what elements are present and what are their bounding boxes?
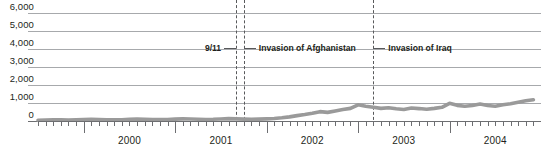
x-tick-minor xyxy=(213,122,214,126)
x-tick-minor xyxy=(274,122,275,126)
x-tick-minor xyxy=(427,122,428,126)
x-tick-minor xyxy=(91,122,92,126)
x-tick-minor xyxy=(114,122,115,126)
x-tick-minor xyxy=(38,122,39,126)
event-label-invasion-iraq: Invasion of Iraq xyxy=(373,43,452,53)
x-tick-minor xyxy=(107,122,108,126)
x-tick-label: 2000 xyxy=(118,135,141,146)
x-tick-minor xyxy=(290,122,291,126)
x-tick-minor xyxy=(350,122,351,126)
x-tick-minor xyxy=(206,122,207,126)
x-tick-minor xyxy=(419,122,420,126)
x-tick-minor xyxy=(465,122,466,126)
y-tick-label: 5,000 xyxy=(0,20,34,30)
x-tick-minor xyxy=(122,122,123,126)
x-tick-minor xyxy=(457,122,458,126)
series-1-path xyxy=(38,100,533,121)
x-tick-major xyxy=(175,122,176,133)
x-tick-minor xyxy=(229,122,230,126)
x-tick-minor xyxy=(190,122,191,126)
leader-line-icon xyxy=(244,48,256,49)
x-tick-minor xyxy=(381,122,382,126)
x-tick-major xyxy=(267,122,268,133)
x-tick-minor xyxy=(320,122,321,126)
x-tick-minor xyxy=(297,122,298,126)
x-tick-minor xyxy=(76,122,77,126)
x-tick-minor xyxy=(168,122,169,126)
x-tick-major xyxy=(450,122,451,133)
event-label-invasion-afghanistan: Invasion of Afghanistan xyxy=(244,43,356,53)
x-tick-minor xyxy=(259,122,260,126)
x-tick-minor xyxy=(129,122,130,126)
x-tick-minor xyxy=(442,122,443,126)
gridline-stub xyxy=(28,103,38,104)
x-tick-minor xyxy=(335,122,336,126)
event-label-nine-eleven: 9/11 xyxy=(205,43,236,53)
y-tick-label: 4,000 xyxy=(0,38,34,48)
x-tick-minor xyxy=(518,122,519,126)
x-tick-minor xyxy=(46,122,47,126)
x-tick-minor xyxy=(533,122,534,126)
x-tick-minor xyxy=(503,122,504,126)
x-tick-minor xyxy=(160,122,161,126)
x-tick-minor xyxy=(434,122,435,126)
x-tick-minor xyxy=(236,122,237,126)
event-label-text: Invasion of Iraq xyxy=(388,43,452,53)
x-tick-minor xyxy=(145,122,146,126)
x-tick-minor xyxy=(137,122,138,126)
x-tick-minor xyxy=(488,122,489,126)
x-tick-label: 2004 xyxy=(484,135,507,146)
x-tick-minor xyxy=(411,122,412,126)
x-tick-minor xyxy=(183,122,184,126)
x-tick-minor xyxy=(404,122,405,126)
y-tick-label: 3,000 xyxy=(0,56,34,66)
x-tick-minor xyxy=(495,122,496,126)
leader-line-icon xyxy=(224,48,236,49)
x-tick-minor xyxy=(198,122,199,126)
x-tick-minor xyxy=(373,122,374,126)
gridline-stub xyxy=(28,49,38,50)
gridline-stub xyxy=(28,85,38,86)
x-tick-major xyxy=(84,122,85,133)
x-tick-minor xyxy=(152,122,153,126)
x-tick-minor xyxy=(366,122,367,126)
y-tick-label: 0 xyxy=(0,110,34,120)
x-tick-label: 2002 xyxy=(301,135,324,146)
x-tick-minor xyxy=(61,122,62,126)
x-tick-minor xyxy=(389,122,390,126)
x-tick-label: 2001 xyxy=(209,135,232,146)
x-tick-minor xyxy=(396,122,397,126)
gridline-stub xyxy=(28,31,38,32)
x-tick-minor xyxy=(282,122,283,126)
y-tick-label: 1,000 xyxy=(0,92,34,102)
event-label-text: 9/11 xyxy=(205,43,221,53)
x-tick-minor xyxy=(251,122,252,126)
event-label-text: Invasion of Afghanistan xyxy=(259,43,356,53)
x-tick-minor xyxy=(244,122,245,126)
x-tick-minor xyxy=(328,122,329,126)
x-tick-minor xyxy=(511,122,512,126)
x-tick-major xyxy=(358,122,359,133)
x-tick-minor xyxy=(480,122,481,126)
x-tick-minor xyxy=(312,122,313,126)
x-tick-minor xyxy=(343,122,344,126)
gridline-stub xyxy=(28,13,38,14)
x-tick-label: 2003 xyxy=(392,135,415,146)
x-axis: 20002001200220032004 xyxy=(38,121,541,156)
y-tick-label: 6,000 xyxy=(0,2,34,12)
line-chart: 01,0002,0003,0004,0005,0006,000 9/11Inva… xyxy=(0,0,541,156)
x-tick-minor xyxy=(99,122,100,126)
x-tick-minor xyxy=(526,122,527,126)
x-tick-minor xyxy=(68,122,69,126)
y-tick-label: 2,000 xyxy=(0,74,34,84)
leader-line-icon xyxy=(373,48,385,49)
x-tick-minor xyxy=(305,122,306,126)
plot-area: 9/11Invasion of AfghanistanInvasion of I… xyxy=(38,0,541,156)
x-tick-minor xyxy=(221,122,222,126)
x-tick-minor xyxy=(472,122,473,126)
y-axis: 01,0002,0003,0004,0005,0006,000 xyxy=(0,0,34,156)
gridline-stub xyxy=(28,67,38,68)
x-tick-minor xyxy=(53,122,54,126)
